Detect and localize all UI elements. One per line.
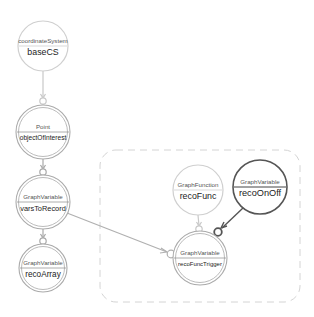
edge-varsToRecord-recoFuncTrigger: [67, 213, 175, 258]
node-name-label: recoFuncTrigger: [178, 261, 222, 267]
node-type-label: GraphVariable: [180, 249, 220, 256]
node-type-label: GraphVariable: [23, 259, 63, 266]
dependency-graph: coordinateSystem baseCS Point objectOfIn…: [0, 0, 314, 317]
node-type-label: Point: [36, 123, 50, 130]
edge-objectOfInterest-varsToRecord: [40, 159, 46, 175]
node-varsToRecord[interactable]: GraphVariable varsToRecord: [16, 175, 70, 229]
node-recoOnOff[interactable]: GraphVariable recoOnOff: [233, 160, 287, 214]
edge-recoFunc-recoFuncTrigger: [196, 215, 202, 232]
node-baseCS[interactable]: coordinateSystem baseCS: [18, 21, 68, 71]
node-name-label: baseCS: [27, 47, 58, 57]
node-recoArray[interactable]: GraphVariable recoArray: [19, 244, 67, 292]
edge-baseCS-objectOfInterest: [40, 71, 46, 104]
node-name-label: objectOfInterest: [20, 134, 67, 142]
node-type-label: GraphVariable: [240, 178, 280, 185]
node-objectOfInterest[interactable]: Point objectOfInterest: [16, 105, 70, 159]
node-type-label: GraphFunction: [178, 181, 219, 188]
node-recoFuncTrigger[interactable]: GraphVariable recoFuncTrigger: [173, 231, 227, 285]
edge-varsToRecord-recoArray: [40, 229, 46, 244]
node-type-label: coordinateSystem: [18, 37, 68, 44]
node-type-label: GraphVariable: [23, 193, 63, 200]
node-name-label: recoOnOff: [239, 188, 282, 198]
node-name-label: varsToRecord: [20, 204, 66, 213]
node-recoFunc[interactable]: GraphFunction recoFunc: [173, 165, 223, 215]
edge-recoOnOff-recoFuncTrigger: [214, 208, 243, 236]
node-name-label: recoArray: [25, 270, 61, 279]
node-name-label: recoFunc: [180, 191, 217, 201]
